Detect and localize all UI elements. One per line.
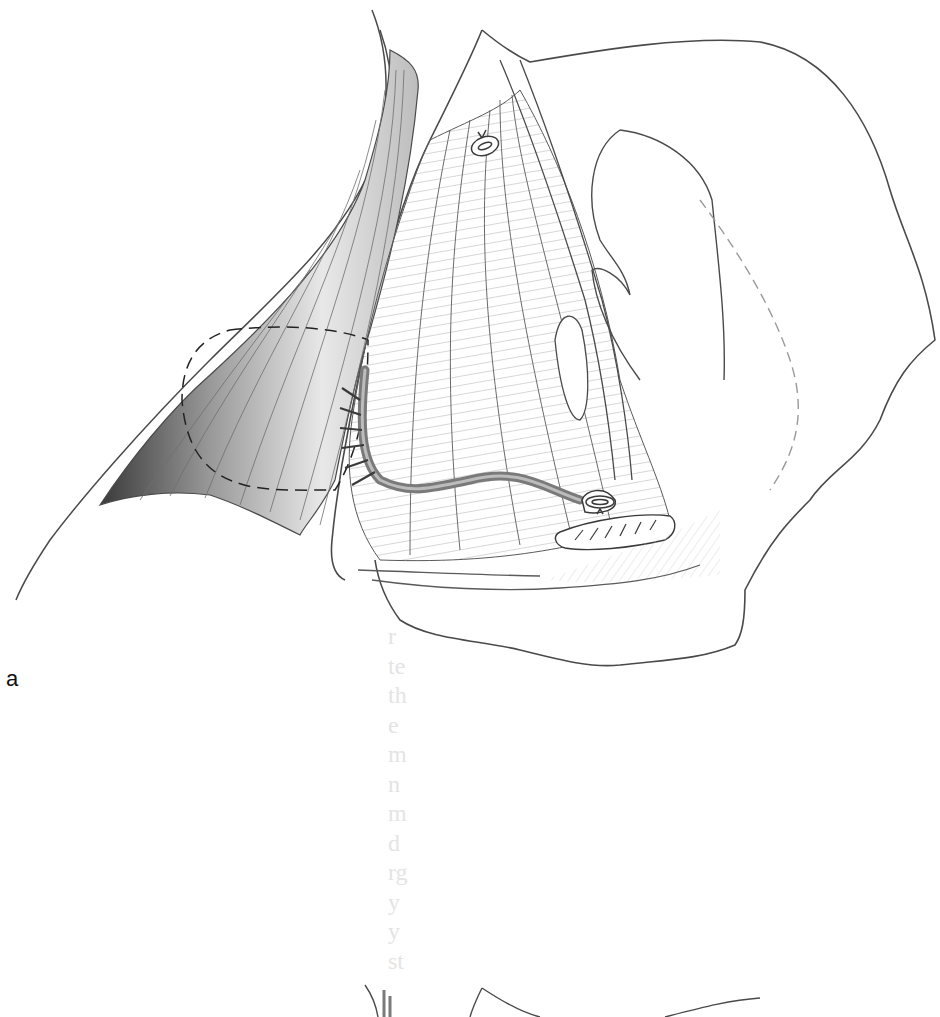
panel-label: a: [6, 666, 18, 692]
bleed-text-line: d: [388, 829, 428, 859]
illustration-canvas: [0, 0, 940, 1017]
bleed-through-text: r te th e m n m d rg y y st: [388, 622, 428, 976]
bleed-text-line: st: [388, 947, 428, 977]
bleed-text-line: y: [388, 888, 428, 918]
bleed-text-line: m: [388, 740, 428, 770]
next-panel-preview: [365, 985, 760, 1017]
bleed-text-line: m: [388, 799, 428, 829]
bleed-text-line: e: [388, 711, 428, 741]
bleed-text-line: y: [388, 917, 428, 947]
bleed-text-line: n: [388, 770, 428, 800]
surgical-illustration: r te th e m n m d rg y y st a: [0, 0, 940, 1017]
bleed-text-line: r: [388, 622, 428, 652]
bleed-text-line: th: [388, 681, 428, 711]
bleed-text-line: rg: [388, 858, 428, 888]
bleed-text-line: te: [388, 652, 428, 682]
